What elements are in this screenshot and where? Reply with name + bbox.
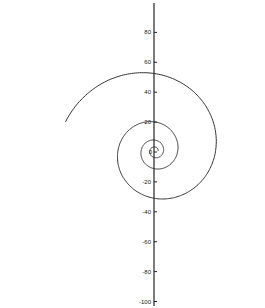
y-tick-label: 60 [144, 59, 151, 65]
y-tick-label: 80 [144, 29, 151, 35]
spiral-curve [66, 73, 217, 199]
y-tick-label: 40 [144, 89, 151, 95]
y-tick-label: -100 [139, 299, 152, 305]
y-axis: 806040200-20-40-60-80-100 [139, 3, 157, 306]
spiral-chart: 806040200-20-40-60-80-100 [0, 0, 265, 308]
y-tick-label: -60 [142, 239, 151, 245]
y-tick-label: -80 [142, 269, 151, 275]
y-tick-label: 0 [149, 149, 153, 155]
y-tick-label: -40 [142, 209, 151, 215]
y-tick-label: 20 [144, 119, 151, 125]
y-tick-label: -20 [142, 179, 151, 185]
